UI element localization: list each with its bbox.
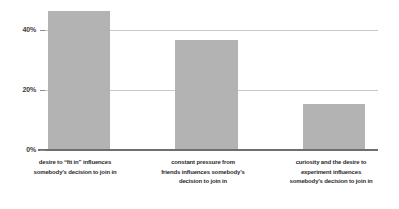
y-tick-label-20: 20% — [10, 86, 36, 94]
x-axis-line — [38, 149, 378, 151]
category-label-line: decision to join in — [139, 177, 267, 187]
bar-curiosity[interactable] — [303, 104, 365, 150]
category-label-line: curiosity and the desire to — [267, 158, 395, 168]
y-tick-label-40: 40% — [10, 26, 36, 34]
category-label-line: friends influences somebody’s — [139, 168, 267, 178]
y-tick-mark-20 — [40, 90, 45, 91]
category-label-line: experiment influences — [267, 168, 395, 178]
bar-chart: 40% 20% 0% desire to “fit in” influences… — [0, 0, 399, 209]
category-label-line: somebody’s decision to join in — [11, 168, 139, 178]
category-label-curiosity: curiosity and the desire to experiment i… — [267, 158, 395, 187]
category-label-fit-in: desire to “fit in” influences somebody’s… — [11, 158, 139, 177]
y-tick-mark-40 — [40, 30, 45, 31]
plot-area — [40, 6, 378, 151]
bar-peer-pressure[interactable] — [175, 40, 238, 150]
y-tick-mark-0 — [40, 150, 45, 151]
category-label-line: constant pressure from — [139, 158, 267, 168]
category-label-line: somebody’s decision to join in — [267, 177, 395, 187]
bar-fit-in[interactable] — [48, 11, 110, 150]
category-label-line: desire to “fit in” influences — [11, 158, 139, 168]
category-label-peer-pressure: constant pressure from friends influence… — [139, 158, 267, 187]
y-tick-label-0: 0% — [10, 146, 36, 154]
